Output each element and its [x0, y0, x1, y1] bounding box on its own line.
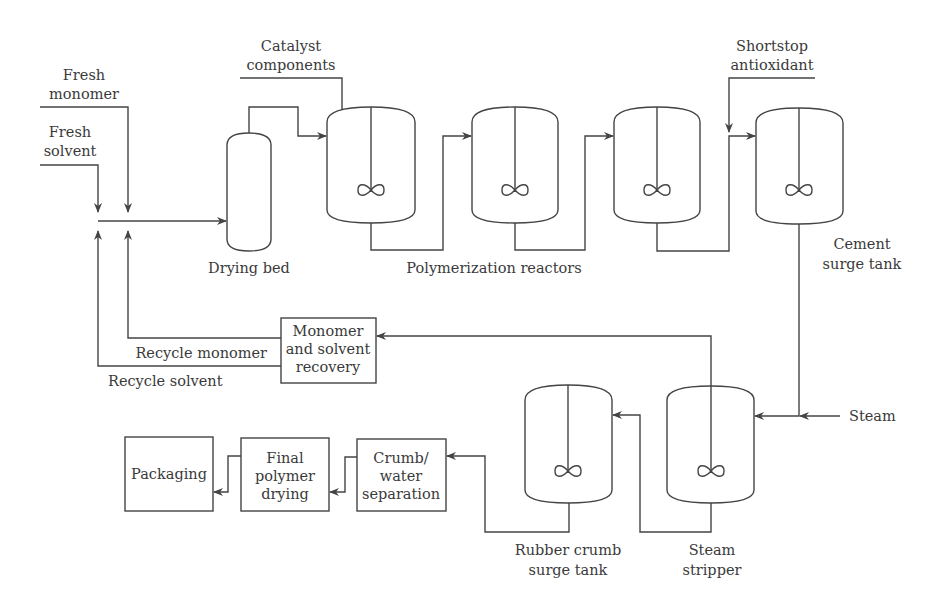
drying-bed-label: Drying bed [208, 260, 290, 276]
packaging: Packaging [125, 437, 213, 511]
crumb-water-label-3: separation [362, 486, 440, 502]
crumb-tank-label-2: surge tank [529, 562, 608, 578]
final-drying-label-2: polymer [255, 468, 315, 484]
process-flow-diagram: Fresh monomer Fresh solvent Recycle mono… [0, 0, 933, 612]
crumb-water-separation: Crumb/ water separation [357, 439, 446, 511]
shortstop-label-1: Shortstop [736, 38, 808, 54]
drying-bed-vessel [227, 133, 271, 251]
fresh-solvent-line [40, 165, 98, 212]
monomer-solvent-recovery: Monomer and solvent recovery [281, 318, 376, 383]
steam-label: Steam [849, 408, 896, 424]
cement-tank-label-1: Cement [833, 236, 890, 252]
crumb-tank-label-1: Rubber crumb [515, 542, 621, 558]
fresh-monomer-line [40, 107, 128, 212]
reactor-3 [614, 107, 700, 223]
final-drying-label-1: Final [266, 450, 304, 466]
recovery-label-1: Monomer [293, 323, 364, 339]
drying-bed: Drying bed [208, 133, 290, 276]
recycle-monomer-label: Recycle monomer [135, 345, 267, 361]
final-polymer-drying: Final polymer drying [241, 438, 329, 511]
cement-tank-label-2: surge tank [823, 256, 902, 272]
catalyst-label-1: Catalyst [261, 38, 321, 54]
crumb-water-label-2: water [380, 468, 422, 484]
drying-bed-to-reactor-1-line [249, 107, 326, 136]
reactor-2 [472, 107, 558, 223]
polymerization-reactors-label: Polymerization reactors [406, 260, 581, 276]
steam-stripper-label-1: Steam [689, 542, 736, 558]
fresh-solvent-label-1: Fresh [49, 124, 91, 140]
final-drying-label-3: drying [261, 486, 309, 502]
fresh-monomer-label-1: Fresh [63, 67, 105, 83]
packaging-label: Packaging [131, 466, 207, 482]
recovery-label-2: and solvent [286, 341, 371, 357]
drying-to-packaging-line [214, 456, 241, 492]
recovery-label-3: recovery [296, 359, 361, 375]
catalyst-label-2: components [246, 57, 335, 73]
steam-feed: Steam [800, 408, 896, 424]
steam-stripper: Steam stripper [667, 386, 754, 578]
separation-to-drying-line [330, 457, 357, 492]
rubber-crumb-surge-tank: Rubber crumb surge tank [515, 385, 621, 578]
recycle-solvent-label: Recycle solvent [108, 373, 223, 389]
fresh-monomer-label-2: monomer [49, 86, 119, 102]
steam-stripper-label-2: stripper [683, 562, 742, 578]
fresh-solvent-label-2: solvent [44, 143, 97, 159]
crumb-water-label-1: Crumb/ [373, 450, 428, 466]
reactor-1 [327, 107, 415, 223]
shortstop-label-2: antioxidant [730, 57, 813, 73]
cement-to-stripper-line [755, 224, 799, 416]
fresh-solvent-feed: Fresh solvent [40, 124, 98, 212]
cement-surge-tank: Cement surge tank [756, 108, 902, 272]
